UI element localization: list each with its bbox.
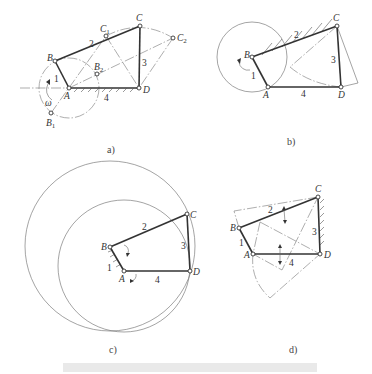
bottom-caption-bar	[63, 363, 317, 372]
link-1	[110, 247, 124, 271]
joint-b	[237, 226, 241, 230]
joint-b1	[49, 111, 53, 115]
link-number-2: 2	[89, 39, 94, 49]
link-3	[139, 26, 140, 88]
label-omega: ω	[45, 98, 52, 108]
link-number-1: 1	[54, 74, 59, 84]
label-b: B	[244, 50, 250, 60]
label-b: B	[47, 53, 53, 63]
link-number-1: 1	[239, 238, 244, 248]
label-c: C	[190, 210, 197, 220]
link-number-4: 4	[301, 89, 306, 99]
caption-c: c)	[109, 344, 117, 356]
link-number-4: 4	[289, 258, 294, 268]
caption-d: d)	[289, 344, 297, 356]
link-number-1: 1	[251, 71, 256, 81]
link-number-4: 4	[104, 93, 109, 103]
joint-d	[137, 86, 141, 90]
label-c2: C2	[177, 33, 187, 45]
label-a: A	[63, 91, 70, 101]
joint-b	[108, 245, 112, 249]
joint-a	[67, 86, 71, 90]
panel-d: A B C D 1 2 3 4 d)	[230, 184, 331, 356]
link-2	[55, 26, 140, 61]
joint-b	[53, 59, 57, 63]
joint-c	[335, 24, 339, 28]
swing-quad	[253, 197, 318, 270]
label-c: C	[315, 184, 322, 194]
label-b1: B1	[46, 118, 56, 130]
link-3	[318, 197, 320, 254]
coupler-extreme-2	[260, 222, 320, 254]
label-a: A	[243, 250, 250, 260]
link-number-2: 2	[268, 205, 273, 215]
label-d: D	[323, 250, 331, 260]
link-number-3: 3	[181, 241, 186, 251]
link-3	[187, 214, 190, 271]
label-d: D	[192, 267, 200, 277]
joint-d	[318, 252, 322, 256]
label-a: A	[262, 90, 269, 100]
inner-circle	[58, 200, 190, 332]
link-number-2: 2	[294, 30, 299, 40]
line-a-c2	[69, 38, 173, 88]
coupler-rotation-arrow-icon	[124, 245, 128, 253]
joint-a	[122, 269, 126, 273]
arrowhead-icon	[130, 279, 134, 283]
swing-sector	[253, 254, 320, 298]
joint-b2	[95, 72, 99, 76]
link-2	[110, 214, 187, 247]
caption-a: a)	[107, 144, 115, 156]
label-a: A	[118, 274, 125, 284]
label-c: C	[333, 13, 340, 23]
rotation-arrow-icon	[239, 62, 250, 70]
label-c: C	[136, 13, 143, 23]
arrowhead-icon	[126, 253, 130, 257]
crank-rotation-arrow-icon	[132, 274, 136, 281]
caption-b: b)	[287, 136, 295, 148]
link-2	[239, 197, 318, 228]
joint-c	[138, 24, 142, 28]
link-number-1: 1	[107, 263, 112, 273]
joint-d	[339, 85, 343, 89]
link-number-3: 3	[142, 58, 147, 68]
ground-hatch	[320, 199, 324, 245]
label-d: D	[337, 90, 345, 100]
label-b: B	[230, 223, 236, 233]
joint-c2	[171, 36, 175, 40]
link-number-2: 2	[142, 222, 147, 232]
panel-c: A B C D 1 2 3 4 c)	[25, 161, 200, 356]
four-bar-linkage-figure: A B C D B1 B2 C1 C2 ω 1 2 3 4 a)	[0, 0, 372, 374]
link-number-3: 3	[331, 55, 336, 65]
panel-b: A B C D 1 2 3 4 b)	[217, 13, 358, 148]
joint-d	[188, 269, 192, 273]
label-b: B	[101, 242, 107, 252]
joint-c	[185, 212, 189, 216]
panel-a: A B C D B1 B2 C1 C2 ω 1 2 3 4 a)	[20, 13, 187, 156]
joint-b	[250, 55, 254, 59]
joint-c	[316, 195, 320, 199]
label-d: D	[142, 85, 150, 95]
link-number-4: 4	[155, 275, 160, 285]
joint-a	[251, 252, 255, 256]
joint-a	[266, 85, 270, 89]
link-number-3: 3	[312, 227, 317, 237]
